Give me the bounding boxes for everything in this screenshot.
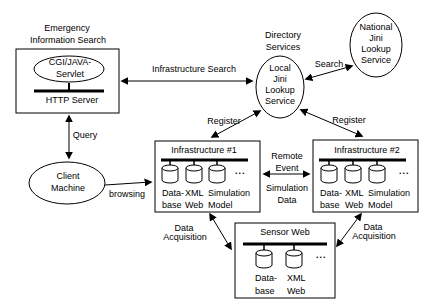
infra1-database-label-line1: Data- (162, 188, 184, 198)
infra2-xml-web-cylinder-icon (345, 165, 361, 183)
infra1-database-cylinder-icon (162, 165, 178, 183)
client-machine-label-line1: Client (56, 171, 79, 181)
local-jini-label-line3: Lookup (265, 85, 295, 95)
cgi-java-servlet-label-line1: CGI/JAVA- (49, 57, 92, 67)
infra1-xml-web-cylinder-icon (186, 165, 202, 183)
browsing-label: browsing (109, 189, 145, 199)
simulation-data-label-line1: Simulation (266, 183, 308, 193)
national-jini-label-line2: Jini (369, 33, 383, 43)
infra2-simulation-model-label-line1: Simulation (368, 188, 410, 198)
local-jini-label-line2: Jini (273, 74, 287, 84)
emergency-title-line2: Information Search (30, 35, 106, 45)
sensor-database-label-line2: base (255, 286, 275, 296)
client-machine-label-line2: Machine (51, 183, 85, 193)
infra2-simulation-model-cylinder-icon (369, 165, 385, 183)
infra2-database-label-line2: base (320, 200, 340, 210)
sensor-xml-web-label-line1: XML (287, 273, 306, 283)
simulation-data-label-line2: Data (277, 195, 296, 205)
infra1-ellipsis: ... (235, 166, 246, 176)
sensor-web-title: Sensor Web (260, 227, 309, 237)
infra2-ellipsis: ... (399, 166, 410, 176)
browsing-arrow (105, 182, 151, 185)
national-jini-label-line1: National (359, 22, 392, 32)
remote-event-label-line1: Remote (271, 151, 303, 161)
infrastructure-1-title: Infrastructure #1 (171, 145, 237, 155)
directory-services-label-line1: Directory (265, 30, 301, 40)
data-acquisition-right-arrow (337, 214, 361, 246)
cgi-java-servlet-label-line2: Servlet (56, 69, 84, 79)
local-jini-label-line4: Service (265, 96, 295, 106)
infra2-xml-web-label-line2: Web (345, 200, 363, 210)
infra1-xml-web-label-line1: XML (185, 188, 204, 198)
http-server-label: HTTP Server (46, 95, 98, 105)
query-label: Query (73, 130, 98, 140)
national-jini-label-line3: Lookup (361, 44, 391, 54)
infra1-database-label-line2: base (162, 200, 182, 210)
sensor-database-label-line1: Data- (255, 273, 277, 283)
data-acquisition-right-label-line2: Acquisition (352, 231, 396, 241)
search-label: Search (315, 59, 344, 69)
infra1-simulation-model-label-line2: Model (208, 200, 233, 210)
sensor-database-cylinder-icon (256, 250, 272, 268)
emergency-title-line1: Emergency (44, 23, 90, 33)
national-jini-label-line4: Service (361, 55, 391, 65)
infra1-simulation-model-cylinder-icon (209, 165, 225, 183)
infra2-xml-web-label-line1: XML (345, 188, 364, 198)
data-acquisition-left-label-line2: Acquisition (163, 232, 207, 242)
register-left-label: Register (207, 116, 241, 126)
infra2-database-cylinder-icon (321, 165, 337, 183)
infrastructure-search-label: Infrastructure Search (152, 64, 236, 74)
infra2-database-label-line1: Data- (320, 188, 342, 198)
sensor-ellipsis: ... (316, 250, 327, 260)
infra1-simulation-model-label-line1: Simulation (208, 188, 250, 198)
remote-event-label-line2: Event (275, 163, 298, 173)
register-right-label: Register (332, 115, 366, 125)
sensor-xml-web-cylinder-icon (286, 250, 302, 268)
infra1-xml-web-label-line2: Web (185, 200, 203, 210)
architecture-diagram: Emergency Information Search CGI/JAVA- S… (0, 0, 433, 308)
directory-services-label-line2: Services (266, 42, 301, 52)
local-jini-label-line1: Local (269, 63, 291, 73)
data-acquisition-left-arrow (210, 214, 231, 249)
infra2-simulation-model-label-line2: Model (368, 200, 393, 210)
infrastructure-2-title: Infrastructure #2 (334, 145, 400, 155)
sensor-xml-web-label-line2: Web (287, 286, 305, 296)
